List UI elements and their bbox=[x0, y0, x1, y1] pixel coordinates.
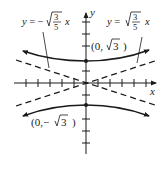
vertex-label-upper: (0, 3 ) bbox=[91, 39, 127, 53]
upper-branch-left bbox=[23, 51, 86, 61]
svg-text:5: 5 bbox=[54, 22, 58, 32]
leader-line-negative bbox=[43, 32, 49, 68]
lower-branch bbox=[86, 105, 149, 116]
asymptote-label-positive: y = 3 5 x bbox=[106, 12, 150, 32]
svg-text:3: 3 bbox=[54, 12, 58, 22]
vertex-label-lower: (0,− 3 ) bbox=[31, 115, 76, 129]
y-axis-label: y bbox=[89, 6, 95, 18]
vertex-lower-point bbox=[84, 103, 88, 107]
svg-text:3: 3 bbox=[61, 116, 67, 128]
vertex-upper-point bbox=[84, 59, 88, 63]
leader-line-positive bbox=[137, 37, 142, 63]
y-axis: y bbox=[82, 6, 95, 154]
hyperbola-graph: x y y = − 3 5 bbox=[0, 0, 162, 173]
svg-text:y = −: y = − bbox=[21, 16, 44, 27]
lower-branch-left bbox=[23, 105, 86, 116]
svg-text:): ) bbox=[123, 40, 127, 53]
svg-text:x: x bbox=[144, 16, 150, 27]
svg-text:(0,: (0, bbox=[91, 40, 103, 53]
svg-text:(0,−: (0,− bbox=[31, 116, 49, 129]
x-axis-label: x bbox=[149, 85, 155, 97]
svg-text:): ) bbox=[72, 116, 76, 129]
svg-text:3: 3 bbox=[133, 12, 137, 22]
svg-text:5: 5 bbox=[133, 22, 137, 32]
svg-text:y =: y = bbox=[106, 16, 120, 27]
asymptote-label-negative: y = − 3 5 x bbox=[21, 12, 70, 32]
svg-text:x: x bbox=[64, 16, 70, 27]
svg-text:3: 3 bbox=[113, 40, 119, 52]
